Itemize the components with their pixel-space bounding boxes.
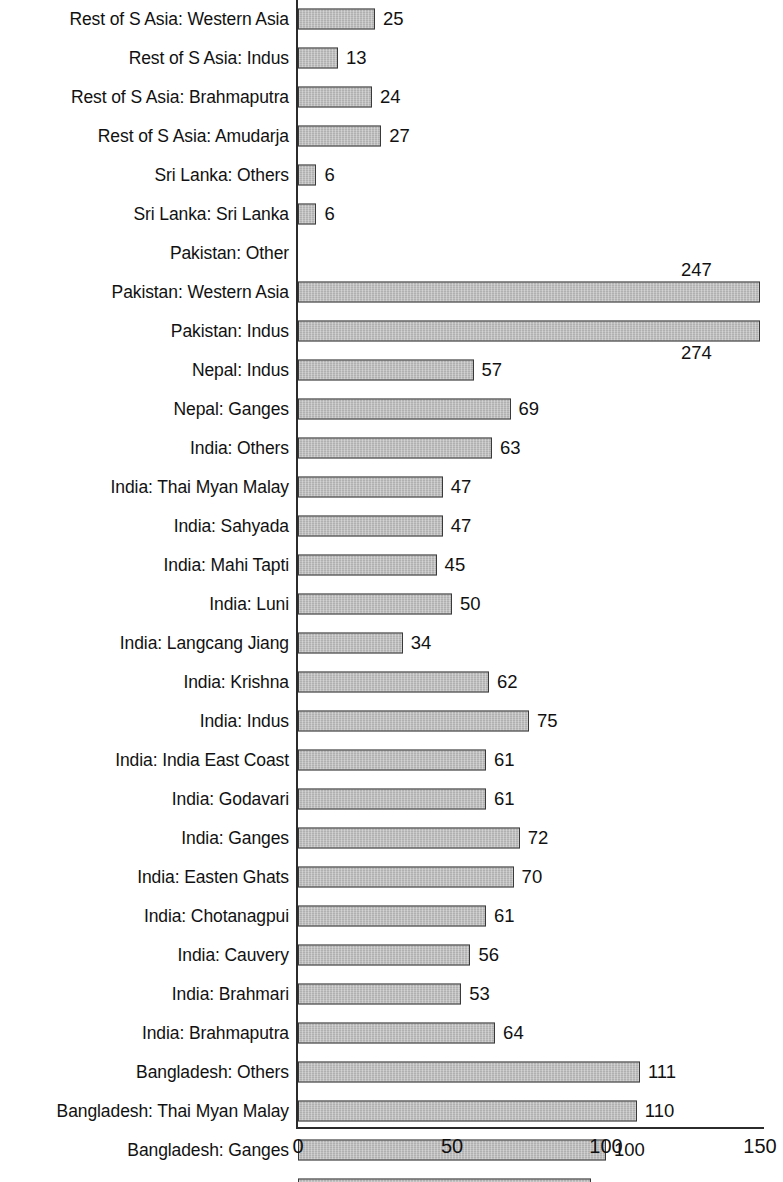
bar: [298, 1061, 640, 1082]
bar-value-label: 70: [522, 867, 543, 887]
category-label: Rest of S Asia: Indus: [129, 48, 289, 68]
bar-container: [298, 47, 338, 68]
bar-value-label: 13: [346, 48, 367, 68]
bar-value-label: 24: [380, 87, 401, 107]
x-tick-label: 100: [589, 1134, 622, 1158]
bar-row: India: Brahmaputra64: [0, 1013, 783, 1052]
bar-row: India: India East Coast61: [0, 740, 783, 779]
bar-row: India: Indus75: [0, 701, 783, 740]
category-label: India: Brahmari: [172, 984, 289, 1004]
bar: [298, 827, 520, 848]
bar-value-label: 63: [500, 438, 521, 458]
bar: [298, 86, 372, 107]
bar-container: [298, 515, 443, 536]
bar-value-label: 62: [497, 672, 518, 692]
bar-value-label: 247: [681, 260, 712, 280]
bar-value-label: 34: [411, 633, 432, 653]
bar-row: India: Godavari61: [0, 779, 783, 818]
bar: [298, 554, 437, 575]
bar-row: Bangladesh: Ganges100: [0, 1130, 783, 1169]
category-label: India: Brahmaputra: [142, 1023, 289, 1043]
category-label: India: Easten Ghats: [137, 867, 289, 887]
bar: [298, 944, 470, 965]
bar-container: [298, 1100, 637, 1121]
bar-container: [298, 554, 437, 575]
bar-value-label: 61: [494, 789, 515, 809]
bar: [298, 8, 375, 29]
category-label: Rest of S Asia: Amudarja: [98, 126, 289, 146]
bar-row: India: Luni50: [0, 584, 783, 623]
bar: [298, 788, 486, 809]
x-tick-label: 0: [292, 1134, 303, 1158]
bar-container: [298, 749, 486, 770]
bar-value-label: 72: [528, 828, 549, 848]
plot-area: Rest of S Asia: Western Asia25Rest of S …: [0, 0, 783, 1182]
bar-container: [298, 632, 403, 653]
bar-row: India: Chotanagpui61: [0, 896, 783, 935]
bar-row: Bangladesh: Brahmaputra95: [0, 1169, 783, 1182]
bar-value-label: 50: [460, 594, 481, 614]
bar-value-label: 61: [494, 750, 515, 770]
bar: [298, 866, 514, 887]
category-label: India: Mahi Tapti: [164, 555, 289, 575]
bar: [298, 905, 486, 926]
bar: [298, 320, 760, 341]
bar-container: [298, 8, 375, 29]
category-label: Nepal: Ganges: [174, 399, 289, 419]
category-label: Bangladesh: Brahmaputra: [88, 1179, 289, 1182]
category-label: Sri Lanka: Others: [155, 165, 289, 185]
category-label: Sri Lanka: Sri Lanka: [133, 204, 289, 224]
category-label: India: Indus: [200, 711, 289, 731]
bar: [298, 359, 474, 380]
bar-row: Sri Lanka: Others6: [0, 155, 783, 194]
bar-row: Bangladesh: Thai Myan Malay110: [0, 1091, 783, 1130]
bar-row: Nepal: Ganges69: [0, 389, 783, 428]
bar: [298, 1022, 495, 1043]
bar: [298, 203, 316, 224]
bar-value-label: 64: [503, 1023, 524, 1043]
bar: [298, 749, 486, 770]
bar: [298, 632, 403, 653]
bar-container: [298, 827, 520, 848]
bar-container: [298, 1022, 495, 1043]
bar-container: [298, 1061, 640, 1082]
horizontal-bar-chart: Rest of S Asia: Western Asia25Rest of S …: [0, 0, 783, 1182]
bar-row: Rest of S Asia: Indus13: [0, 38, 783, 77]
bar: [298, 476, 443, 497]
bar-container: [298, 164, 316, 185]
category-label: Bangladesh: Others: [136, 1062, 289, 1082]
bar-row: India: Ganges72: [0, 818, 783, 857]
bar: [298, 1178, 591, 1182]
bar: [298, 437, 492, 458]
category-label: India: Luni: [209, 594, 289, 614]
bar-row: Nepal: Indus57: [0, 350, 783, 389]
bar: [298, 710, 529, 731]
category-label: India: Thai Myan Malay: [111, 477, 289, 497]
bar-value-label: 6: [324, 204, 334, 224]
bar-row: Rest of S Asia: Brahmaputra24: [0, 77, 783, 116]
bar-row: India: Others63: [0, 428, 783, 467]
bar-container: [298, 359, 474, 380]
bar-row: Pakistan: Western Asia247: [0, 272, 783, 311]
category-label: Nepal: Indus: [192, 360, 289, 380]
category-label: India: Ganges: [181, 828, 289, 848]
bar-container: [298, 281, 760, 302]
bar-container: [298, 398, 511, 419]
bar-value-label: 61: [494, 906, 515, 926]
bar-value-label: 111: [648, 1062, 676, 1082]
bar-container: [298, 476, 443, 497]
category-label: India: Langcang Jiang: [120, 633, 289, 653]
bar-value-label: 53: [469, 984, 490, 1004]
bar: [298, 983, 461, 1004]
category-label: India: Sahyada: [174, 516, 289, 536]
category-label: Rest of S Asia: Western Asia: [69, 9, 289, 29]
bar: [298, 671, 489, 692]
category-label: India: Chotanagpui: [144, 906, 289, 926]
bar-row: India: Cauvery56: [0, 935, 783, 974]
bar-value-label: 110: [645, 1101, 675, 1121]
category-label: India: Others: [190, 438, 289, 458]
bar-container: [298, 203, 316, 224]
bar-value-label: 45: [445, 555, 466, 575]
category-label: Bangladesh: Thai Myan Malay: [57, 1101, 289, 1121]
bar: [298, 281, 760, 302]
